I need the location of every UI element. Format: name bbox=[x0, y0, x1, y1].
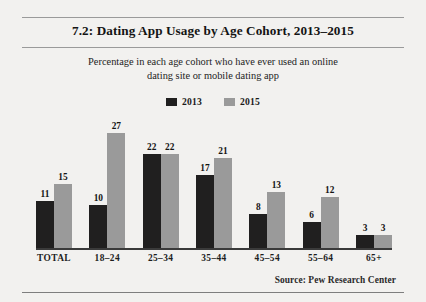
bar-2015-25–34: 22 bbox=[161, 112, 179, 248]
bar-rect bbox=[143, 154, 161, 248]
x-tick-label-35–44: 35–44 bbox=[196, 253, 232, 263]
legend-swatch-icon-2015 bbox=[224, 98, 235, 106]
bar-group-65+: 33 bbox=[356, 112, 392, 248]
bar-value-label: 17 bbox=[200, 163, 209, 174]
source-note: Source: Pew Research Center bbox=[275, 275, 396, 285]
bar-rect bbox=[321, 197, 339, 248]
bar-2015-65+: 3 bbox=[374, 112, 392, 248]
x-tick-label-65+: 65+ bbox=[356, 253, 392, 263]
chart-subtitle-line-2: dating site or mobile dating app bbox=[0, 69, 426, 83]
x-tick-label-45–54: 45–54 bbox=[249, 253, 285, 263]
bar-rect bbox=[374, 235, 392, 248]
bar-rect bbox=[107, 133, 125, 248]
x-axis-tick-labels: TOTAL18–2425–3435–4445–5455–6465+ bbox=[36, 253, 392, 263]
x-tick-label-18–24: 18–24 bbox=[89, 253, 125, 263]
chart-subtitle: Percentage in each age cohort who have e… bbox=[0, 55, 426, 83]
legend-label-2013: 2013 bbox=[182, 97, 202, 107]
bar-value-label: 11 bbox=[41, 189, 50, 200]
title-rule-top bbox=[22, 17, 404, 18]
legend-swatch-icon-2013 bbox=[166, 98, 177, 106]
bar-groups: 111510272222172181361233 bbox=[36, 112, 392, 248]
page-title: 7.2: Dating App Usage by Age Cohort, 201… bbox=[0, 23, 426, 39]
bar-group-35–44: 1721 bbox=[196, 112, 232, 248]
bar-group-55–64: 612 bbox=[303, 112, 339, 248]
bar-2013-45–54: 8 bbox=[249, 112, 267, 248]
bar-2013-35–44: 17 bbox=[196, 112, 214, 248]
x-tick-label-55–64: 55–64 bbox=[303, 253, 339, 263]
bar-2015-18–24: 27 bbox=[107, 112, 125, 248]
bar-rect bbox=[249, 214, 267, 248]
x-tick-label-25–34: 25–34 bbox=[143, 253, 179, 263]
bar-rect bbox=[196, 175, 214, 248]
bar-value-label: 8 bbox=[256, 202, 261, 213]
bar-group-TOTAL: 1115 bbox=[36, 112, 72, 248]
bar-rect bbox=[356, 235, 374, 248]
bar-value-label: 22 bbox=[165, 142, 174, 153]
bar-group-25–34: 2222 bbox=[143, 112, 179, 248]
bar-rect bbox=[303, 222, 321, 248]
bar-rect bbox=[267, 192, 285, 248]
bar-rect bbox=[161, 154, 179, 248]
bar-value-label: 12 bbox=[325, 185, 334, 196]
title-rule-bottom bbox=[22, 47, 404, 48]
footer-rule bbox=[22, 292, 404, 293]
legend-label-2015: 2015 bbox=[240, 97, 260, 107]
bar-group-18–24: 1027 bbox=[89, 112, 125, 248]
bar-rect bbox=[36, 201, 54, 248]
bar-rect bbox=[89, 205, 107, 248]
bar-value-label: 10 bbox=[94, 193, 103, 204]
bar-rect bbox=[54, 184, 72, 248]
bar-2015-TOTAL: 15 bbox=[54, 112, 72, 248]
bar-value-label: 3 bbox=[363, 223, 368, 234]
bar-2013-TOTAL: 11 bbox=[36, 112, 54, 248]
bar-value-label: 13 bbox=[272, 180, 281, 191]
figure-page: 7.2: Dating App Usage by Age Cohort, 201… bbox=[0, 0, 426, 302]
bar-value-label: 6 bbox=[309, 210, 314, 221]
bar-2015-35–44: 21 bbox=[214, 112, 232, 248]
bar-value-label: 27 bbox=[112, 121, 121, 132]
x-axis-line bbox=[36, 248, 392, 250]
bar-group-45–54: 813 bbox=[249, 112, 285, 248]
bar-value-label: 3 bbox=[381, 223, 386, 234]
bar-2015-55–64: 12 bbox=[321, 112, 339, 248]
chart-plot-area: 111510272222172181361233 bbox=[36, 112, 392, 248]
bar-2013-25–34: 22 bbox=[143, 112, 161, 248]
chart-subtitle-line-1: Percentage in each age cohort who have e… bbox=[0, 55, 426, 69]
chart-legend: 20132015 bbox=[0, 97, 426, 107]
bar-value-label: 22 bbox=[147, 142, 156, 153]
bar-2015-45–54: 13 bbox=[267, 112, 285, 248]
legend-item-2015: 2015 bbox=[224, 97, 260, 107]
legend-item-2013: 2013 bbox=[166, 97, 202, 107]
bar-2013-55–64: 6 bbox=[303, 112, 321, 248]
bar-2013-65+: 3 bbox=[356, 112, 374, 248]
bar-rect bbox=[214, 158, 232, 248]
bar-value-label: 15 bbox=[58, 172, 67, 183]
bar-value-label: 21 bbox=[218, 146, 227, 157]
bar-2013-18–24: 10 bbox=[89, 112, 107, 248]
x-tick-label-TOTAL: TOTAL bbox=[36, 253, 72, 263]
